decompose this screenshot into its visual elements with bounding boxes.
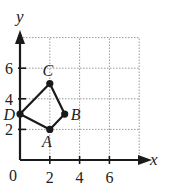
point-a <box>46 126 53 133</box>
point-c <box>46 80 53 87</box>
x-tick-label: 6 <box>105 169 113 186</box>
y-axis-arrow-icon <box>15 30 25 44</box>
x-axis-label: x <box>149 150 158 169</box>
tick-marks: 246246 <box>5 60 113 186</box>
origin-label: 0 <box>9 167 17 184</box>
quadrilateral-abcd: ABCD <box>2 62 80 151</box>
x-tick-label: 2 <box>46 169 54 186</box>
grid-lines <box>20 38 139 160</box>
point-label-c: C <box>42 62 53 79</box>
labels: x y 0 <box>9 7 158 184</box>
coordinate-plane: 246246 ABCD x y 0 <box>0 0 169 193</box>
point-label-b: B <box>71 106 81 123</box>
polygon-outline <box>20 84 65 130</box>
point-b <box>61 111 68 118</box>
y-tick-label: 2 <box>5 121 13 138</box>
point-d <box>16 111 23 118</box>
point-label-d: D <box>2 106 15 123</box>
y-tick-label: 6 <box>5 60 13 77</box>
point-label-a: A <box>41 133 52 150</box>
x-tick-label: 4 <box>76 169 84 186</box>
y-axis-label: y <box>14 7 24 26</box>
